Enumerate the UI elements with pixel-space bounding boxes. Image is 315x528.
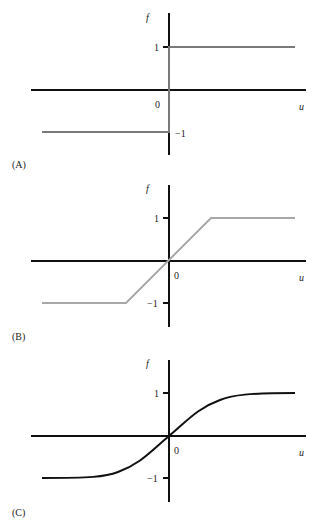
panel-c: f 1 0 u −1 (C) [12, 358, 306, 519]
panel-a: f 1 0 u −1 (A) [12, 12, 306, 171]
y-label: f [146, 12, 150, 23]
y-label: f [146, 358, 150, 369]
tick-label-minus-1: −1 [175, 128, 186, 139]
x-label: u [299, 272, 304, 283]
tick-label-1: 1 [154, 388, 159, 399]
activation-functions-figure: f 1 0 u −1 (A) f 1 0 u −1 (B) f 1 0 u −1… [0, 0, 315, 528]
x-label: u [299, 101, 304, 112]
tick-label-1: 1 [154, 213, 159, 224]
tick-label-minus-1: −1 [147, 473, 158, 484]
tick-label-0: 0 [174, 445, 179, 456]
tick-label-0: 0 [155, 99, 160, 110]
panel-label-a: (A) [12, 159, 26, 171]
panel-label-c: (C) [12, 507, 25, 519]
panel-label-b: (B) [12, 331, 25, 343]
tick-label-minus-1: −1 [147, 298, 158, 309]
panel-b: f 1 0 u −1 (B) [12, 183, 306, 343]
tick-label-1: 1 [154, 42, 159, 53]
tick-label-0: 0 [174, 270, 179, 281]
y-label: f [146, 183, 150, 194]
x-label: u [299, 447, 304, 458]
